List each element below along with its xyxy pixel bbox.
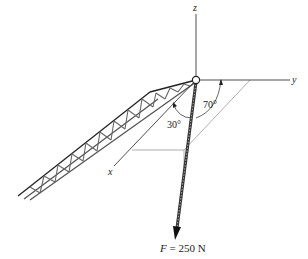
force-symbol: F — [159, 242, 167, 254]
force-label: F = 250 N — [159, 242, 206, 254]
arrowhead-icon — [173, 226, 181, 240]
x-axis-label: x — [107, 166, 113, 177]
force-equals: = — [169, 242, 175, 254]
pin-joint-icon — [192, 76, 199, 83]
truss-boom — [18, 80, 196, 200]
y-axis-label: y — [291, 74, 297, 85]
z-axis-label: z — [192, 2, 197, 13]
force-diagram: z y x 70° 30° F = 250 N — [0, 0, 308, 259]
angle-label-30: 30° — [167, 119, 181, 130]
angle-label-70: 70° — [203, 99, 217, 110]
coordinate-axes — [114, 14, 290, 166]
force-value: 250 N — [178, 242, 205, 254]
